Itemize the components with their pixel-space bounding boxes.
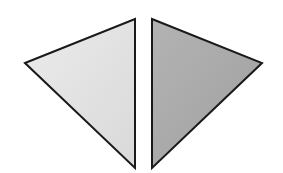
right-triangle xyxy=(152,19,262,168)
diagram-canvas xyxy=(0,0,283,173)
left-triangle xyxy=(25,19,135,168)
